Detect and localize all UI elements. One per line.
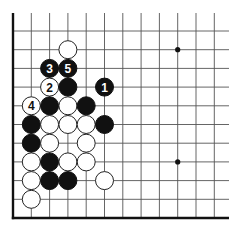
white-stone <box>22 172 40 190</box>
go-board: 35214 <box>0 0 237 232</box>
star-point-icon <box>175 159 180 164</box>
white-stone <box>77 134 95 152</box>
white-stone-icon <box>22 190 40 208</box>
black-stone <box>41 97 59 115</box>
move-number-label: 1 <box>101 81 108 95</box>
white-stone-icon <box>41 116 59 134</box>
black-stone <box>22 134 40 152</box>
black-stone-icon <box>59 172 77 190</box>
black-stone-icon <box>41 153 59 171</box>
move-number-label: 3 <box>46 62 53 76</box>
white-stone-icon <box>77 134 95 152</box>
star-point-icon <box>175 47 180 52</box>
white-stone-icon <box>96 172 114 190</box>
black-stone: 1 <box>96 78 114 96</box>
white-stone <box>22 153 40 171</box>
white-stone-icon <box>59 153 77 171</box>
white-stone <box>22 190 40 208</box>
white-stone-icon <box>77 116 95 134</box>
black-stone: 5 <box>59 59 77 77</box>
white-stone: 4 <box>22 97 40 115</box>
white-stone-icon <box>59 116 77 134</box>
white-stone <box>59 153 77 171</box>
white-stone-icon <box>22 153 40 171</box>
white-stone <box>41 134 59 152</box>
white-stone <box>41 116 59 134</box>
black-stone-icon <box>77 97 95 115</box>
white-stone <box>96 172 114 190</box>
move-number-label: 2 <box>46 81 53 95</box>
black-stone <box>59 172 77 190</box>
black-stone-icon <box>22 116 40 134</box>
black-stone-icon <box>96 116 114 134</box>
white-stone-icon <box>22 172 40 190</box>
black-stone-icon <box>59 78 77 96</box>
move-number-label: 4 <box>28 99 35 113</box>
black-stone <box>77 97 95 115</box>
stones: 35214 <box>22 41 113 209</box>
black-stone-icon <box>41 97 59 115</box>
black-stone <box>96 116 114 134</box>
move-number-label: 5 <box>65 62 72 76</box>
black-stone <box>22 116 40 134</box>
white-stone <box>77 153 95 171</box>
white-stone-icon <box>59 41 77 59</box>
white-stone: 2 <box>41 78 59 96</box>
black-stone <box>41 172 59 190</box>
white-stone <box>77 116 95 134</box>
black-stone-icon <box>22 134 40 152</box>
white-stone-icon <box>41 134 59 152</box>
white-stone <box>59 97 77 115</box>
black-stone <box>59 78 77 96</box>
white-stone <box>59 116 77 134</box>
black-stone-icon <box>41 172 59 190</box>
white-stone-icon <box>77 153 95 171</box>
black-stone <box>41 153 59 171</box>
black-stone: 3 <box>41 59 59 77</box>
white-stone-icon <box>59 97 77 115</box>
white-stone <box>59 41 77 59</box>
